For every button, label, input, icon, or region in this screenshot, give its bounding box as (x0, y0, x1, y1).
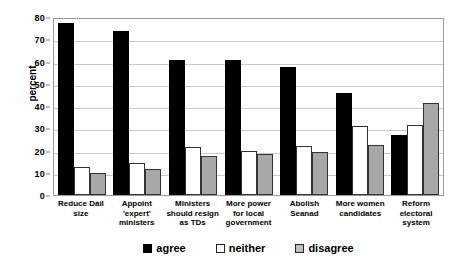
legend-label: agree (156, 242, 185, 254)
y-axis-tick: 60 (35, 58, 45, 67)
y-axis-tick: 10 (35, 169, 45, 178)
y-axis-tick: 40 (35, 103, 45, 112)
bar-group (221, 19, 277, 195)
y-axis-tick-mark (46, 173, 50, 174)
bar-disagree (201, 156, 217, 195)
y-axis-tick: 20 (35, 147, 45, 156)
y-axis-tick: 80 (35, 14, 45, 23)
y-axis-tick-labels: 01020304050607080 (0, 18, 50, 196)
legend-item-disagree[interactable]: disagree (295, 242, 353, 254)
bar-disagree (368, 145, 384, 195)
bar-agree (169, 60, 185, 195)
legend-swatch-disagree (295, 244, 304, 253)
bar-group (332, 19, 388, 195)
bar-agree (58, 23, 74, 195)
bar-disagree (257, 154, 273, 195)
legend-item-agree[interactable]: agree (143, 242, 185, 254)
x-axis-tick: Ministersshould resignas TDs (165, 199, 221, 233)
legend-label: neither (229, 242, 266, 254)
bar-neither (296, 146, 312, 195)
bar-agree (280, 67, 296, 195)
bar-disagree (312, 152, 328, 195)
bar-neither (74, 167, 90, 195)
bar-agree (391, 135, 407, 195)
bar-disagree (423, 103, 439, 195)
bar-neither (407, 125, 423, 195)
bar-neither (352, 126, 368, 195)
x-axis-tick: Reformelectoralsystem (388, 199, 444, 233)
x-axis-tick: More womencandidates (332, 199, 388, 233)
bar-chart-figure: percent 01020304050607080 Reduce Dáilsiz… (0, 0, 459, 262)
y-axis-tick-mark (46, 151, 50, 152)
x-axis-tick: Appoint 'expert'ministers (109, 199, 165, 233)
legend-item-neither[interactable]: neither (216, 242, 266, 254)
bar-group (165, 19, 221, 195)
plot-area (53, 18, 444, 196)
bar-disagree (90, 173, 106, 195)
y-axis-tick: 70 (35, 36, 45, 45)
legend-swatch-agree (143, 244, 152, 253)
bar-group (276, 19, 332, 195)
legend-swatch-neither (216, 244, 225, 253)
legend-label: disagree (308, 242, 353, 254)
chart-legend: agreeneitherdisagree (53, 239, 444, 257)
bar-agree (336, 93, 352, 195)
bar-group (110, 19, 166, 195)
bar-neither (185, 147, 201, 195)
y-axis-tick-mark (46, 196, 50, 197)
y-axis-tick-mark (46, 129, 50, 130)
bar-neither (129, 163, 145, 195)
y-axis-tick: 50 (35, 80, 45, 89)
x-axis-tick: Reduce Dáilsize (53, 199, 109, 233)
bar-groups (54, 19, 443, 195)
x-axis-tick: More powerfor localgovernment (221, 199, 277, 233)
y-axis-tick: 30 (35, 125, 45, 134)
y-axis-tick-mark (46, 62, 50, 63)
y-axis-tick-mark (46, 107, 50, 108)
bar-group (387, 19, 443, 195)
bar-disagree (145, 169, 161, 195)
bar-neither (241, 151, 257, 196)
bar-agree (225, 60, 241, 195)
y-axis-tick-mark (46, 40, 50, 41)
x-axis-tick: Abolish Seanad (276, 199, 332, 233)
y-axis-tick-mark (46, 18, 50, 19)
bar-agree (113, 31, 129, 195)
x-axis-tick-labels: Reduce DáilsizeAppoint 'expert'ministers… (53, 199, 444, 233)
y-axis-tick: 0 (40, 192, 45, 201)
y-axis-tick-mark (46, 84, 50, 85)
bar-group (54, 19, 110, 195)
